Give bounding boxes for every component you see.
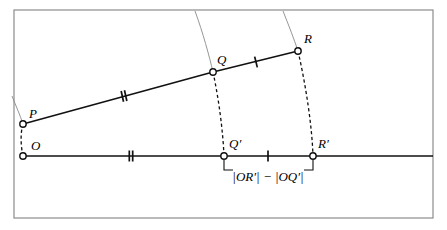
point-marker-P (20, 121, 26, 127)
segment-PQ (23, 72, 213, 124)
guide-arc-through-Q (195, 11, 213, 72)
figure-frame (14, 10, 433, 218)
point-labels-group: POQRQ′R′ (28, 31, 329, 153)
point-marker-Rp (310, 153, 316, 159)
point-label-O: O (31, 138, 41, 153)
point-marker-Q (210, 69, 216, 75)
point-label-Qp: Q′ (229, 136, 241, 151)
dashed-arcs-group (21, 51, 313, 156)
difference-bracket: |OR′| − |OQ′| (224, 160, 313, 184)
point-label-P: P (28, 106, 37, 121)
geometry-figure: |OR′| − |OQ′| POQRQ′R′ (0, 0, 447, 230)
geometry-canvas: |OR′| − |OQ′| POQRQ′R′ (0, 0, 447, 230)
difference-expression-label: |OR′| − |OQ′| (232, 169, 303, 184)
guide-arc-through-R (283, 11, 298, 51)
point-label-Q: Q (217, 52, 227, 67)
arc-Q-to-Qp (213, 72, 224, 156)
arc-R-to-Rp (298, 51, 313, 156)
point-label-Rp: R′ (317, 136, 329, 151)
point-markers-group (20, 48, 316, 159)
point-label-R: R (303, 31, 312, 46)
point-marker-O (20, 153, 26, 159)
guide-arcs-group (12, 11, 298, 124)
point-marker-Qp (221, 153, 227, 159)
arc-P-to-O (21, 124, 23, 156)
tick-marks-group (121, 57, 268, 162)
point-marker-R (295, 48, 301, 54)
